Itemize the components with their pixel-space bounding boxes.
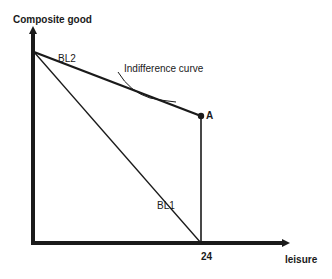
bl1-label: BL1: [157, 200, 175, 211]
y-axis-label: Composite good: [13, 14, 92, 25]
x-tick-24: 24: [201, 251, 212, 262]
diagram-canvas: [0, 0, 332, 279]
point-a-label: A: [206, 110, 213, 121]
x-axis-label: leisure: [285, 254, 317, 265]
point-a-marker: [198, 113, 204, 119]
budget-line-bl1: [34, 52, 201, 243]
bl2-label: BL2: [58, 53, 76, 64]
indifference-curve-label: Indifference curve: [124, 63, 203, 74]
